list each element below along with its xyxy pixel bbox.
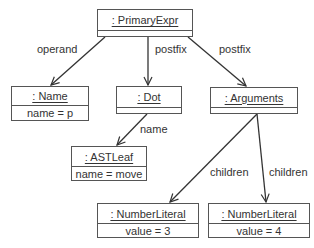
object-arguments[interactable]: : Arguments	[210, 87, 298, 114]
link-children-4	[257, 114, 266, 202]
object-number-literal-3[interactable]: : NumberLiteral value = 3	[97, 203, 199, 238]
object-title: : Name	[32, 90, 67, 102]
object-attribute: value = 4	[209, 224, 309, 237]
object-name[interactable]: : Name name = p	[11, 86, 89, 121]
label-name: name	[140, 123, 168, 135]
object-attribute: name = p	[12, 106, 88, 120]
object-title: : Dot	[137, 91, 160, 103]
label-children-4: children	[269, 166, 308, 178]
object-primary-expr[interactable]: : PrimaryExpr	[97, 9, 193, 37]
object-dot[interactable]: : Dot	[116, 86, 182, 114]
object-number-literal-4[interactable]: : NumberLiteral value = 4	[208, 203, 310, 238]
object-title: : NumberLiteral	[221, 208, 296, 220]
object-attribute: value = 3	[98, 224, 198, 237]
label-postfix-arguments: postfix	[219, 43, 251, 55]
label-postfix-dot: postfix	[155, 43, 187, 55]
label-operand: operand	[37, 43, 77, 55]
object-title: : NumberLiteral	[110, 208, 185, 220]
object-astleaf[interactable]: : ASTLeaf name = move	[71, 146, 147, 181]
label-children-3: children	[210, 166, 249, 178]
object-title: : ASTLeaf	[85, 151, 133, 163]
object-attribute: name = move	[72, 167, 146, 180]
object-title: : Arguments	[225, 92, 284, 104]
link-children-3	[170, 114, 257, 202]
object-title: : PrimaryExpr	[112, 14, 179, 26]
